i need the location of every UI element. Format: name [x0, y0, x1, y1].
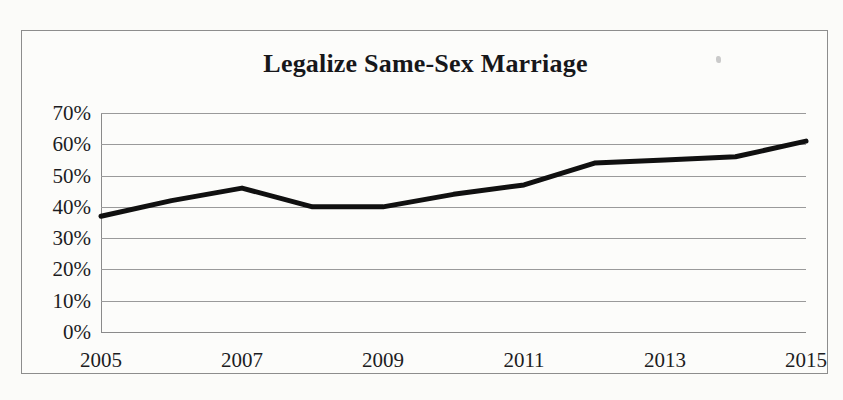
y-tick-label-20: 20% — [53, 257, 92, 282]
y-tick-label-30: 30% — [53, 226, 92, 251]
chart-frame: Legalize Same-Sex Marriage 70%60%50%40%3… — [21, 30, 828, 374]
gridline-0 — [101, 332, 806, 333]
line-series — [101, 113, 806, 332]
chart-title: Legalize Same-Sex Marriage — [22, 49, 829, 79]
y-tick-label-50: 50% — [53, 163, 92, 188]
y-tick-label-0: 0% — [63, 320, 91, 345]
y-tick-label-10: 10% — [53, 288, 92, 313]
plot-area: 70%60%50%40%30%20%10%0% 2005200720092011… — [101, 113, 806, 332]
chart-figure: Legalize Same-Sex Marriage 70%60%50%40%3… — [0, 0, 843, 400]
x-tick-label-2005: 2005 — [80, 348, 122, 373]
x-tick-label-2007: 2007 — [221, 348, 263, 373]
y-tick-label-70: 70% — [53, 101, 92, 126]
scan-artifact-speck — [716, 56, 721, 63]
series-polyline — [101, 141, 806, 216]
y-tick-label-40: 40% — [53, 194, 92, 219]
x-tick-label-2009: 2009 — [362, 348, 404, 373]
x-tick-label-2015: 2015 — [785, 348, 827, 373]
x-tick-label-2013: 2013 — [644, 348, 686, 373]
y-tick-label-60: 60% — [53, 132, 92, 157]
x-tick-label-2011: 2011 — [503, 348, 544, 373]
